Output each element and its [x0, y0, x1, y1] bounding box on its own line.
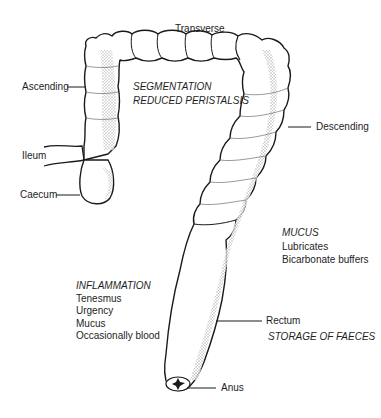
annotation-storage-of-faeces: STORAGE OF FAECES [268, 331, 375, 343]
segmentation-line: SEGMENTATION [133, 80, 249, 94]
annotation-segmentation: SEGMENTATION REDUCED PERISTALSIS [133, 80, 249, 108]
annotation-inflammation: INFLAMMATION Tenesmus Urgency Mucus Occa… [76, 280, 160, 343]
caecum-shape [80, 160, 114, 204]
label-caecum: Caecum [20, 189, 57, 201]
label-ileum: Ileum [22, 150, 46, 162]
annotation-mucus: MUCUS Lubricates Bicarbonate buffers [282, 226, 369, 267]
mucus-item: Lubricates [282, 240, 369, 254]
anus-shape [166, 377, 190, 391]
inflammation-item: Mucus [76, 318, 160, 331]
label-ascending: Ascending [22, 81, 69, 93]
label-transverse: Transverse [175, 23, 225, 35]
mucus-heading: MUCUS [282, 226, 369, 240]
inflammation-item: Tenesmus [76, 293, 160, 306]
inflammation-item: Urgency [76, 305, 160, 318]
reduced-peristalsis-line: REDUCED PERISTALSIS [133, 94, 249, 108]
label-descending: Descending [316, 121, 369, 133]
label-rectum: Rectum [266, 315, 300, 327]
inflammation-item: Occasionally blood [76, 330, 160, 343]
ileum-shape [44, 145, 84, 166]
inflammation-heading: INFLAMMATION [76, 280, 160, 293]
colon-diagram [0, 0, 381, 418]
mucus-item: Bicarbonate buffers [282, 253, 369, 267]
label-anus: Anus [221, 382, 244, 394]
